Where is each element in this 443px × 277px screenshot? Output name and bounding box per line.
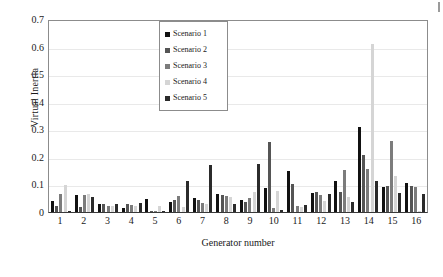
bar [75,195,78,212]
bar-chart-figure: Virtual Inertia 00.10.20.30.40.50.60.7 1… [0,0,443,277]
bar-group [403,21,427,212]
x-tick-label: 11 [286,215,310,227]
x-tick-label: 1 [48,215,72,227]
bar [371,44,374,212]
x-tick-label: 9 [238,215,262,227]
bar-group [73,21,97,212]
y-tick-label: 0 [14,208,44,218]
y-tick-label: 0.3 [14,125,44,135]
bar [169,202,172,212]
bar-group [309,21,333,212]
x-axis-tick-labels: 12345678910111213141516 [48,215,428,227]
legend-label: Scenario 1 [173,30,207,38]
bar [414,187,417,212]
bar-group [120,21,144,212]
bar [139,203,142,212]
legend-swatch-icon [165,80,170,85]
bar [244,202,247,212]
legend-label: Scenario 3 [173,62,207,70]
bar [291,184,294,212]
bar [268,142,271,212]
bar [328,194,331,212]
bar [248,198,251,212]
bar [122,208,125,212]
bar [319,195,322,212]
bar [276,191,279,212]
legend-label: Scenario 4 [173,78,207,86]
bar [79,207,82,212]
x-axis-title: Generator number [48,237,428,248]
y-tick-label: 0.4 [14,98,44,108]
plot-area [48,20,428,213]
y-tick-label: 0.6 [14,43,44,53]
bar [264,188,267,212]
bar [201,203,204,212]
legend-swatch-icon [165,48,170,53]
legend-item: Scenario 4 [165,74,222,90]
x-tick-label: 15 [381,215,405,227]
x-tick-label: 4 [119,215,143,227]
bar [287,171,290,212]
legend-item: Scenario 3 [165,58,222,74]
bar-group [262,21,286,212]
bar [272,208,275,212]
bar [375,181,378,212]
bar [216,194,219,212]
bar [197,200,200,212]
bar [390,141,393,212]
bar [300,207,303,212]
bar [296,206,299,212]
x-tick-label: 3 [96,215,120,227]
bar [186,181,189,212]
bar [115,204,118,212]
x-tick-label: 13 [333,215,357,227]
bar [362,155,365,212]
bar [347,197,350,212]
bar [253,192,256,212]
bar [351,202,354,212]
bar-group [333,21,357,212]
bar [221,195,224,212]
x-tick-label: 12 [309,215,333,227]
bar-group [380,21,404,212]
legend-swatch-icon [165,64,170,69]
bar-group [96,21,120,212]
page-corner-mark [438,2,440,12]
bar [83,195,86,212]
bar [257,164,260,212]
bar [64,185,67,212]
bar [366,169,369,212]
bar [311,193,314,212]
bar [107,206,110,212]
bar [91,197,94,212]
bar [209,165,212,212]
bar [145,199,148,213]
bar [405,183,408,212]
legend-item: Scenario 1 [165,26,222,42]
x-tick-label: 14 [357,215,381,227]
bar [68,211,71,212]
y-tick-label: 0.7 [14,15,44,25]
x-tick-label: 6 [167,215,191,227]
bar [229,197,232,212]
x-tick-label: 7 [191,215,215,227]
y-tick-label: 0.2 [14,153,44,163]
bar [182,207,185,212]
bar [51,201,54,212]
bar [177,196,180,212]
x-tick-label: 5 [143,215,167,227]
bar [158,206,161,212]
y-tick-label: 0.1 [14,180,44,190]
legend-label: Scenario 5 [173,94,207,102]
legend-item: Scenario 2 [165,42,222,58]
bar [315,192,318,212]
bar [193,198,196,212]
bar [150,211,153,212]
bar [162,211,165,212]
bar [418,211,421,212]
bar [102,204,105,212]
bar-group [238,21,262,212]
bar [154,211,157,212]
bar-group [356,21,380,212]
bar [126,204,129,212]
